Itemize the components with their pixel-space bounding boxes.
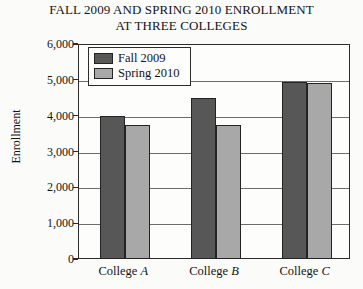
bar: [125, 125, 150, 259]
x-tick-label: College C: [260, 264, 350, 279]
y-tick-label: 0: [14, 253, 74, 265]
x-tick-label-name: College: [280, 264, 322, 278]
y-tick-label: 3,000: [14, 146, 74, 158]
bar-group: [282, 44, 332, 259]
chart-title: FALL 2009 AND SPRING 2010 ENROLLMENT AT …: [0, 2, 363, 34]
legend-swatch: [94, 68, 113, 79]
x-tick-label: College B: [169, 264, 259, 279]
chart-legend: Fall 2009Spring 2010: [88, 47, 191, 86]
x-tick-label: College A: [78, 264, 168, 279]
legend-label: Fall 2009: [118, 52, 166, 65]
y-tick-label: 2,000: [14, 181, 74, 193]
y-tick-label: 5,000: [14, 74, 74, 86]
y-tick-label: 6,000: [14, 38, 74, 50]
bar: [216, 125, 241, 259]
x-tick-label-name: College: [98, 264, 140, 278]
bar: [100, 116, 125, 259]
x-tick-label-letter: A: [140, 264, 148, 278]
legend-swatch: [94, 53, 113, 64]
x-tick-label-letter: B: [231, 264, 239, 278]
legend-label: Spring 2010: [118, 67, 179, 80]
x-tick-label-letter: C: [322, 264, 330, 278]
bar: [307, 83, 332, 259]
x-tick-label-name: College: [189, 264, 231, 278]
bar: [282, 82, 307, 259]
chart-title-line-1: FALL 2009 AND SPRING 2010 ENROLLMENT: [0, 2, 363, 18]
y-tick-label: 4,000: [14, 110, 74, 122]
legend-item: Spring 2010: [94, 66, 186, 81]
bar-group: [191, 44, 241, 259]
y-tick-label: 1,000: [14, 217, 74, 229]
y-axis-title: Enrollment: [9, 87, 24, 187]
chart-title-line-2: AT THREE COLLEGES: [0, 18, 363, 34]
bar: [191, 98, 216, 259]
legend-item: Fall 2009: [94, 51, 186, 66]
